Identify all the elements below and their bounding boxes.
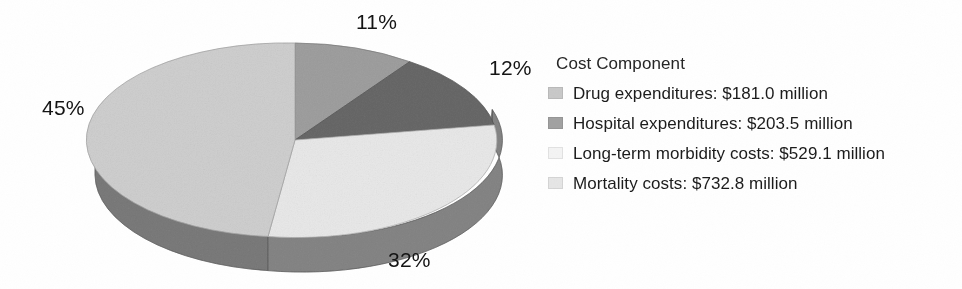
legend-swatch-icon-mortality bbox=[548, 177, 563, 189]
chart-legend: Cost Component Drug expenditures: $181.0… bbox=[548, 54, 948, 203]
pie-chart-graphic: 11% 12% 45% 32% bbox=[0, 0, 540, 289]
legend-swatch-icon-drug bbox=[548, 87, 563, 99]
legend-swatch-icon-morbidity bbox=[548, 147, 563, 159]
legend-item-long-term-morbidity-costs: Long-term morbidity costs: $529.1 millio… bbox=[548, 143, 948, 164]
pie-chart-figure: 11% 12% 45% 32% Cost Component Drug expe… bbox=[0, 0, 962, 289]
legend-item-hospital-expenditures: Hospital expenditures: $203.5 million bbox=[548, 113, 948, 134]
legend-label-drug: Drug expenditures: $181.0 million bbox=[573, 83, 828, 104]
pie-label-12-percent: 12% bbox=[489, 56, 532, 80]
legend-item-mortality-costs: Mortality costs: $732.8 million bbox=[548, 173, 948, 194]
pie-label-45-percent: 45% bbox=[42, 96, 85, 120]
pie-label-32-percent: 32% bbox=[388, 248, 431, 272]
legend-title: Cost Component bbox=[556, 54, 948, 74]
legend-label-morbidity: Long-term morbidity costs: $529.1 millio… bbox=[573, 143, 885, 164]
legend-item-drug-expenditures: Drug expenditures: $181.0 million bbox=[548, 83, 948, 104]
legend-swatch-icon-hospital bbox=[548, 117, 563, 129]
pie-label-11-percent: 11% bbox=[356, 10, 397, 34]
pie-svg bbox=[0, 0, 540, 289]
legend-label-mortality: Mortality costs: $732.8 million bbox=[573, 173, 798, 194]
legend-label-hospital: Hospital expenditures: $203.5 million bbox=[573, 113, 853, 134]
